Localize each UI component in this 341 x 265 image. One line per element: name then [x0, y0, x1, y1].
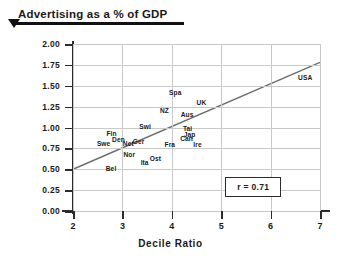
data-point-label: Spa [169, 88, 181, 95]
gridline-horizontal [73, 190, 320, 191]
x-tick-label: 5 [211, 221, 231, 231]
y-tick-mark [65, 128, 73, 130]
y-tick-mark [65, 107, 73, 109]
x-axis-title: Decile Ratio [0, 238, 341, 249]
correlation-badge: r = 0.71 [225, 177, 281, 197]
y-tick-label: 2.00 [42, 39, 60, 49]
y-tick-mark [65, 190, 73, 192]
gridline-horizontal [73, 148, 320, 149]
x-tick-mark [122, 211, 124, 219]
gridline-vertical [122, 44, 123, 211]
y-tick-label: 1.50 [42, 81, 60, 91]
y-tick-label: 1.25 [42, 102, 60, 112]
gridline-horizontal [73, 44, 320, 45]
chart-root: Advertising as a % of GDP SweFinDenBelNe… [0, 0, 341, 265]
data-point-label: Swe [97, 139, 111, 146]
y-tick-mark [65, 211, 73, 213]
data-point-label: UK [197, 99, 207, 106]
x-tick-label: 6 [261, 221, 281, 231]
gridline-vertical [73, 44, 74, 211]
x-tick-label: 4 [162, 221, 182, 231]
gridline-vertical [172, 44, 173, 211]
x-tick-label: 2 [63, 221, 83, 231]
y-tick-label: 1.75 [42, 60, 60, 70]
page-title: Advertising as a % of GDP [12, 8, 187, 20]
gridline-vertical [320, 44, 321, 211]
gridline-horizontal [73, 128, 320, 129]
x-tick-label: 7 [310, 221, 330, 231]
x-tick-mark [172, 211, 174, 219]
y-tick-mark [65, 65, 73, 67]
data-point-label: Fra [165, 141, 176, 148]
plot-area: SweFinDenBelNetNorGerItaOstSwiNZSpaFraCa… [73, 44, 320, 211]
data-point-label: USA [298, 74, 312, 81]
x-tick-mark [271, 211, 273, 219]
y-tick-mark [65, 169, 73, 171]
data-point-label: Ita [141, 158, 149, 165]
x-tick-mark [320, 211, 322, 219]
gridline-horizontal [73, 86, 320, 87]
data-point-label: NZ [160, 106, 169, 113]
y-tick-mark [65, 148, 73, 150]
data-point-label: Ire [193, 141, 201, 148]
data-point-label: Jap [184, 131, 196, 138]
data-point-label: Swi [139, 122, 151, 129]
data-point-label: Ost [150, 155, 161, 162]
y-tick-label: 0.50 [42, 164, 60, 174]
x-tick-mark [221, 211, 223, 219]
x-tick-mark [73, 211, 75, 219]
chart-title-block: Advertising as a % of GDP [12, 8, 187, 25]
data-point-label: Bel [106, 164, 117, 171]
y-tick-label: 1.00 [42, 123, 60, 133]
y-tick-mark [65, 44, 73, 46]
gridline-horizontal [73, 65, 320, 66]
data-point-label: Nor [123, 151, 135, 158]
y-tick-label: 0.00 [42, 206, 60, 216]
y-tick-mark [65, 86, 73, 88]
data-point-label: Aus [181, 111, 194, 118]
gridline-horizontal [73, 107, 320, 108]
data-point-label: Ger [133, 137, 145, 144]
y-tick-label: 0.25 [42, 185, 60, 195]
gridline-horizontal [73, 211, 320, 212]
title-underline [12, 22, 184, 25]
gridline-vertical [221, 44, 222, 211]
x-tick-label: 3 [112, 221, 132, 231]
triangle-down-icon [8, 19, 20, 28]
y-tick-label: 0.75 [42, 143, 60, 153]
